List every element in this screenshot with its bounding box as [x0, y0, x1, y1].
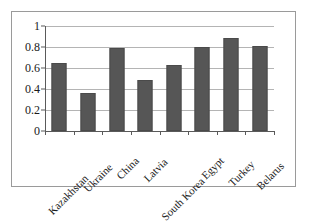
x-axis-tick-mark: [245, 131, 246, 135]
bar: [195, 47, 210, 131]
y-axis-tick-label: 0.8: [25, 41, 40, 53]
y-axis-tick-label: 0.4: [25, 83, 40, 95]
bar: [109, 48, 124, 131]
bar: [224, 38, 239, 131]
bar-slot: [74, 26, 103, 131]
bar: [252, 46, 267, 131]
x-axis-tick-mark: [274, 131, 275, 135]
x-axis-tick-mark: [217, 131, 218, 135]
x-axis-tick-mark: [131, 131, 132, 135]
x-axis-tick-mark: [160, 131, 161, 135]
bar: [80, 93, 95, 131]
x-axis-tick-mark: [45, 131, 46, 135]
bar-slot: [217, 26, 246, 131]
y-axis-tick-label: 1: [34, 20, 40, 32]
x-axis-category-label: Belarus: [280, 138, 309, 170]
y-axis-tick-label: 0.2: [25, 104, 40, 116]
x-axis-tick-mark: [74, 131, 75, 135]
bar-slot: [188, 26, 217, 131]
chart-frame: 00.20.40.60.81 KazakhstanUkraineChinaLat…: [11, 11, 296, 187]
plot-area: 00.20.40.60.81 KazakhstanUkraineChinaLat…: [45, 26, 274, 131]
x-axis-tick-mark: [188, 131, 189, 135]
bar-slot: [160, 26, 189, 131]
bar: [138, 80, 153, 131]
bar-slot: [245, 26, 274, 131]
x-axis-category-label: Egypt: [220, 138, 246, 164]
bar: [166, 65, 181, 131]
y-axis-tick-label: 0.6: [25, 62, 40, 74]
bar: [52, 63, 67, 131]
bar-slot: [45, 26, 74, 131]
bar-slot: [131, 26, 160, 131]
y-axis-tick-label: 0: [34, 125, 40, 137]
bar-slot: [102, 26, 131, 131]
bar-series: [45, 26, 274, 131]
x-axis-category-label: Latvia: [163, 138, 191, 166]
x-axis-tick-mark: [102, 131, 103, 135]
